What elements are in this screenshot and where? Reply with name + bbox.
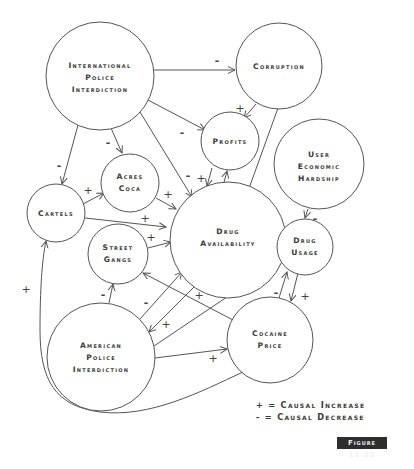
node-label: Coca <box>119 184 142 193</box>
node-acres-coca: Acres Coca <box>101 154 159 212</box>
node-label: International <box>68 61 131 70</box>
edge-intl-to-profits <box>148 100 205 130</box>
node-profits: Profits <box>201 112 259 170</box>
sign-american-price: + <box>208 352 217 365</box>
edge-intl-to-cartels <box>62 125 78 184</box>
causal-loop-diagram: - - - - - + + + + + + + + + - - - + - + … <box>0 0 414 469</box>
sign-intl-acres: - <box>106 136 111 149</box>
node-label: American <box>80 341 122 350</box>
sign-profits-availability: + <box>196 172 205 185</box>
node-label: Price <box>258 341 283 350</box>
node-drug-availability: Drug Availability <box>170 182 286 298</box>
edge-intl-to-acres <box>111 128 122 153</box>
sign-availability-american: + <box>161 318 170 331</box>
node-label: Availability <box>200 239 256 248</box>
node-label: Profits <box>212 137 247 146</box>
node-label: Interdiction <box>73 365 130 374</box>
edge-american-to-gangs <box>109 284 113 303</box>
node-drug-usage: Drug Usage <box>277 219 333 275</box>
sign-price-cartels: + <box>21 283 30 296</box>
node-label: Police <box>86 353 116 362</box>
node-label: Drug <box>293 236 317 245</box>
edge-profits-to-availability <box>207 168 212 186</box>
sign-intl-profits: - <box>180 126 185 139</box>
node-label: Interdiction <box>72 85 129 94</box>
sign-intl-cartels: - <box>57 159 62 172</box>
node-label: Drug <box>216 227 240 236</box>
node-cocaine-price: Cocaine Price <box>227 297 313 383</box>
node-label: Acres <box>117 172 144 181</box>
edge-price-to-usage <box>279 272 287 298</box>
legend: + = Causal Increase - = Causal Decrease <box>256 400 365 422</box>
edge-usage-to-price <box>291 273 298 301</box>
node-american-police-interdiction: American Police Interdiction <box>47 303 155 411</box>
node-label: Cartels <box>38 209 74 218</box>
node-label: Street <box>103 243 134 252</box>
sign-american-gangs: - <box>101 288 106 301</box>
edge-availability-to-american <box>149 286 195 332</box>
node-user-economic-hardship: User Economic Hardship <box>274 119 364 209</box>
node-label: User <box>308 150 330 159</box>
sign-cartels-availability: + <box>140 212 149 225</box>
edge-corruption-to-profits <box>244 104 256 118</box>
figure-label: Figure 11.15 <box>337 437 387 449</box>
sign-gangs-availability: + <box>146 231 155 244</box>
sign-cartels-acres: + <box>83 184 92 197</box>
node-street-gangs: Street Gangs <box>88 224 148 284</box>
sign-usage-price: + <box>300 290 309 303</box>
node-label: Gangs <box>104 255 133 264</box>
node-label: Corruption <box>253 62 305 71</box>
node-international-police-interdiction: International Police Interdiction <box>46 22 154 130</box>
legend-decrease: - = Causal Decrease <box>256 412 365 422</box>
sign-american-availability: - <box>144 296 149 309</box>
edge-hardship-to-usage <box>305 209 308 218</box>
sign-acres-availability: + <box>163 188 172 201</box>
node-label: Economic <box>298 162 340 171</box>
node-corruption: Corruption <box>236 23 322 109</box>
node-label: Cocaine <box>252 329 288 338</box>
legend-increase: + = Causal Increase <box>256 400 365 410</box>
node-label: Usage <box>291 248 319 257</box>
sign-intl-availability: - <box>186 169 191 182</box>
node-cartels: Cartels <box>27 184 85 242</box>
node-label: Hardship <box>298 174 340 183</box>
sign-intl-corruption: - <box>215 54 220 67</box>
node-label: Police <box>85 73 115 82</box>
